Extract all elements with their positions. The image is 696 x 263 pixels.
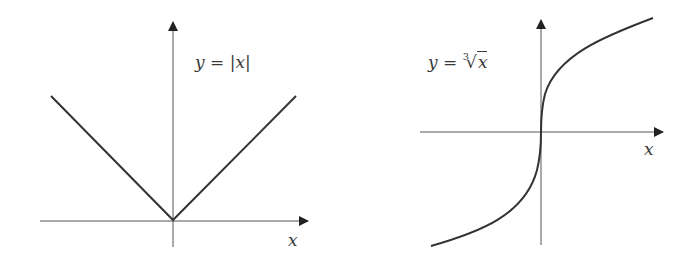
abs-graph xyxy=(40,22,308,247)
cbrt-equation-label: y = 3√x xyxy=(428,52,487,72)
abs-rhs: |x| xyxy=(230,52,251,72)
cbrt-index: 3 xyxy=(463,51,469,62)
cbrt-radicand: x xyxy=(477,51,488,72)
abs-x-axis-label: x xyxy=(288,230,298,250)
cbrt-lhs: y xyxy=(428,52,438,72)
cbrt-eq: = xyxy=(443,52,457,72)
graphs-canvas xyxy=(0,0,696,263)
abs-equation-label: y = |x| xyxy=(195,52,251,72)
abs-lhs: y xyxy=(195,52,205,72)
cbrt-x-axis-label: x xyxy=(644,139,654,159)
abs-eq: = xyxy=(210,52,224,72)
